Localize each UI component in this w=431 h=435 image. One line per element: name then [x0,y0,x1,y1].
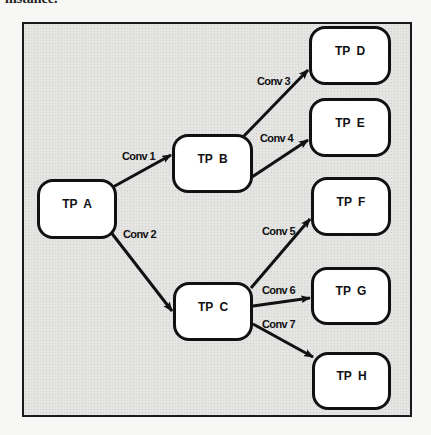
node-tp-d: TP D [309,26,391,85]
edge-label-conv5: Conv 5 [262,225,295,237]
node-label: TP C [198,300,228,314]
edge-label-conv6: Conv 6 [262,284,295,296]
edge-conv6-arrow [253,298,310,306]
node-tp-a: TP A [37,179,117,239]
node-label: TP D [335,44,365,58]
node-tp-g: TP G [311,267,391,325]
node-label: TP E [335,116,364,130]
node-tp-f: TP F [311,177,391,236]
node-label: TP A [62,197,92,211]
edge-label-conv2: Conv 2 [123,228,156,240]
edge-label-conv1: Conv 1 [122,150,155,162]
edge-label-conv4: Conv 4 [260,132,293,144]
edge-label-conv3: Conv 3 [257,75,290,87]
node-label: TP H [336,369,366,383]
node-label: TP G [336,284,367,298]
edge-label-conv7: Conv 7 [262,318,295,330]
node-label: TP B [197,152,227,166]
node-tp-h: TP H [312,352,391,410]
node-label: TP F [337,195,366,209]
node-tp-c: TP C [173,282,253,341]
node-tp-b: TP B [172,134,253,193]
edge-conv2-arrow [110,231,172,311]
edge-conv4-arrow [252,140,308,177]
node-tp-e: TP E [309,98,391,157]
